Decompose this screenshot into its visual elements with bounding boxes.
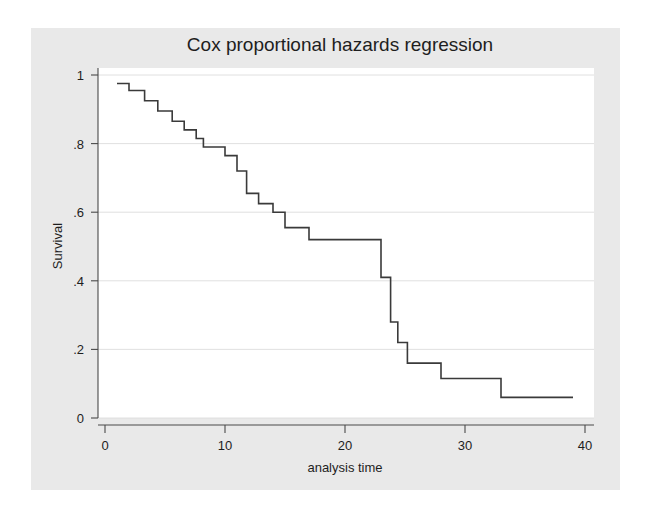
xticklabel-10: 10 — [218, 438, 232, 453]
yticklabel-0_2: .2 — [73, 342, 84, 357]
xticklabel-40: 40 — [578, 438, 592, 453]
xticklabel-20: 20 — [338, 438, 352, 453]
x-axis-ticks — [105, 425, 585, 433]
y-axis-label: Survival — [50, 223, 65, 269]
cox-survival-chart: 1 .8 .6 .4 .2 0 0 10 20 30 40 Cox propor… — [0, 0, 649, 513]
xticklabel-0: 0 — [101, 438, 108, 453]
y-axis-ticklabels: 1 .8 .6 .4 .2 0 — [73, 68, 84, 426]
yticklabel-0_6: .6 — [73, 205, 84, 220]
yticklabel-0: 0 — [77, 411, 84, 426]
xticklabel-30: 30 — [458, 438, 472, 453]
chart-title: Cox proportional hazards regression — [187, 34, 493, 55]
y-axis-ticks — [91, 75, 98, 418]
yticklabel-0_4: .4 — [73, 274, 84, 289]
x-axis-label: analysis time — [307, 460, 382, 475]
yticklabel-1: 1 — [77, 68, 84, 83]
yticklabel-0_8: .8 — [73, 137, 84, 152]
x-axis-ticklabels: 0 10 20 30 40 — [101, 438, 592, 453]
